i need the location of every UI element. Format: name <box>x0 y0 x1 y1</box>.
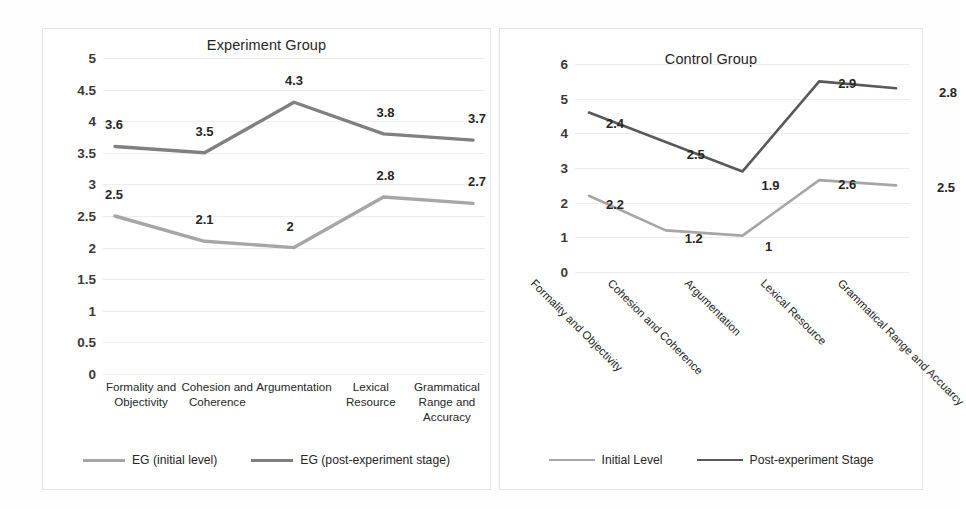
gridline <box>103 374 485 375</box>
y-axis-tick-label: 3.5 <box>77 145 96 160</box>
y-axis-tick-label: 3 <box>560 161 568 176</box>
data-point-label: 2.2 <box>606 196 624 211</box>
experiment-group-series-lines <box>103 58 485 374</box>
y-axis-tick-label: 2.5 <box>77 209 96 224</box>
series-line-2 <box>115 102 473 153</box>
legend-item[interactable]: Post-experiment Stage <box>697 453 874 467</box>
legend-label: Initial Level <box>602 453 663 467</box>
y-axis-tick-label: 4 <box>88 114 96 129</box>
y-axis-tick-label: 1.5 <box>77 272 96 287</box>
y-axis-tick-label: 2 <box>88 240 96 255</box>
legend-item[interactable]: EG (post-experiment stage) <box>251 453 450 467</box>
x-axis-category-label: Grammatical Range and Accuarcy <box>836 277 966 408</box>
data-point-label: 4.3 <box>285 73 303 88</box>
x-axis-category-label: Argumentation <box>682 277 743 338</box>
data-point-label: 2.5 <box>105 187 123 202</box>
x-axis-category-label: Cohesion and Coherence <box>179 379 255 459</box>
legend-label: Post-experiment Stage <box>750 453 874 467</box>
data-point-label: 3.5 <box>195 123 213 138</box>
x-axis-categories-right: Formality and ObjectivityCohesion and Co… <box>575 277 910 427</box>
x-axis-category-label: Lexical Resource <box>759 277 829 347</box>
data-point-label: 2.1 <box>195 212 213 227</box>
data-point-label: 2.7 <box>468 174 486 189</box>
legend-line-swatch <box>549 459 595 461</box>
control-group-legend: Initial LevelPost-experiment Stage <box>520 453 902 467</box>
x-axis-category-label: Formality and Objectivity <box>103 379 179 459</box>
y-axis-tick-label: 0 <box>560 265 568 280</box>
y-axis-tick-label: 2 <box>560 195 568 210</box>
y-axis-tick-label: 0.5 <box>77 335 96 350</box>
data-point-label: 3.8 <box>376 104 394 119</box>
legend-label: EG (post-experiment stage) <box>300 453 450 467</box>
data-point-label: 3.7 <box>468 111 486 126</box>
y-axis-tick-label: 3 <box>88 177 96 192</box>
legend-line-swatch <box>83 459 125 462</box>
series-line-1 <box>115 197 473 248</box>
legend-line-swatch <box>697 459 743 461</box>
gridline <box>575 272 910 273</box>
legend-label: EG (initial level) <box>132 453 217 467</box>
data-point-label: 1 <box>765 238 772 253</box>
legend-item[interactable]: EG (initial level) <box>83 453 217 467</box>
y-axis-tick-label: 6 <box>560 57 568 72</box>
data-point-label: 2 <box>286 218 293 233</box>
x-axis-category-label: Grammatical Range and Accuracy <box>409 379 485 459</box>
y-axis-tick-label: 4 <box>560 126 568 141</box>
data-point-label: 2.4 <box>606 115 624 130</box>
data-point-label: 2.5 <box>687 147 705 162</box>
y-axis-tick-label: 0 <box>88 367 96 382</box>
legend-item[interactable]: Initial Level <box>549 453 663 467</box>
x-axis-categories-left: Formality and ObjectivityCohesion and Co… <box>103 379 485 459</box>
data-point-label: 1.2 <box>685 231 703 246</box>
experiment-group-plot-area: 00.511.522.533.544.55 2.52.122.82.73.63.… <box>103 58 485 374</box>
y-axis-tick-label: 4.5 <box>77 82 96 97</box>
control-group-series-lines <box>575 64 910 272</box>
data-point-label: 2.5 <box>937 180 955 195</box>
experiment-group-title: Experiment Group <box>43 37 490 53</box>
series-line-2 <box>589 81 896 171</box>
x-axis-category-label: Argumentation <box>255 379 332 459</box>
experiment-group-legend: EG (initial level)EG (post-experiment st… <box>63 453 470 467</box>
y-axis-tick-label: 5 <box>88 51 96 66</box>
y-axis-tick-label: 1 <box>88 303 96 318</box>
y-axis-tick-label: 5 <box>560 91 568 106</box>
data-point-label: 2.8 <box>939 85 957 100</box>
experiment-group-chart-panel: Experiment Group 00.511.522.533.544.55 2… <box>42 28 491 490</box>
y-axis-tick-label: 1 <box>560 230 568 245</box>
control-group-chart-panel: Control Group 0123456 2.21.212.62.52.42.… <box>499 28 923 490</box>
control-group-plot-area: 0123456 2.21.212.62.52.42.51.92.92.8 <box>575 64 910 272</box>
data-point-label: 2.6 <box>838 177 856 192</box>
data-point-label: 2.9 <box>838 76 856 91</box>
data-point-label: 1.9 <box>761 178 779 193</box>
x-axis-category-label: Lexical Resource <box>333 379 409 459</box>
legend-line-swatch <box>251 459 293 462</box>
data-point-label: 3.6 <box>105 117 123 132</box>
data-point-label: 2.8 <box>376 168 394 183</box>
